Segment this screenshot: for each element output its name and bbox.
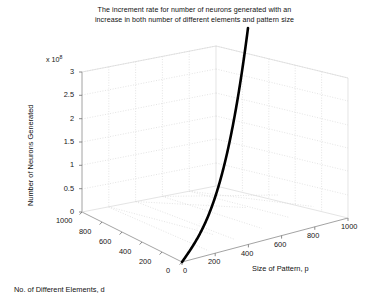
y-tick-2: 2	[52, 114, 74, 123]
z-axis-label: Size of Pattern, p	[252, 264, 309, 273]
x-tick-1000: 1000	[56, 216, 72, 225]
y-axis-label: Number of Neurons Generated	[26, 105, 35, 206]
y-tick-0: 0	[52, 207, 74, 216]
x-axis-label: No. of Different Elements, d	[14, 285, 105, 294]
plot-canvas	[0, 0, 389, 308]
y-axis-exponent-prefix: x 10	[46, 55, 60, 64]
y-axis-tick-marks	[79, 72, 82, 212]
z-tick-0: 0	[183, 266, 187, 275]
z-tick-600: 600	[274, 240, 286, 249]
z-tick-400: 400	[241, 249, 253, 258]
z-tick-800: 800	[307, 231, 319, 240]
figure-3d-line-plot: The increment rate for number of neurons…	[0, 0, 389, 308]
x-tick-400: 400	[119, 247, 131, 256]
y-tick-1: 1	[52, 160, 74, 169]
y-axis-exponent: x 108	[46, 54, 62, 64]
grid-wall-left	[82, 46, 216, 212]
x-tick-600: 600	[99, 237, 111, 246]
x-tick-800: 800	[79, 227, 91, 236]
y-axis-exponent-power: 8	[60, 54, 63, 60]
y-tick-2.5: 2.5	[52, 90, 74, 99]
y-tick-1.5: 1.5	[52, 137, 74, 146]
y-tick-0.5: 0.5	[52, 184, 74, 193]
y-tick-3: 3	[52, 67, 74, 76]
z-tick-200: 200	[208, 257, 220, 266]
x-tick-0: 0	[166, 266, 170, 275]
x-tick-200: 200	[139, 257, 151, 266]
z-tick-1000: 1000	[341, 222, 357, 231]
